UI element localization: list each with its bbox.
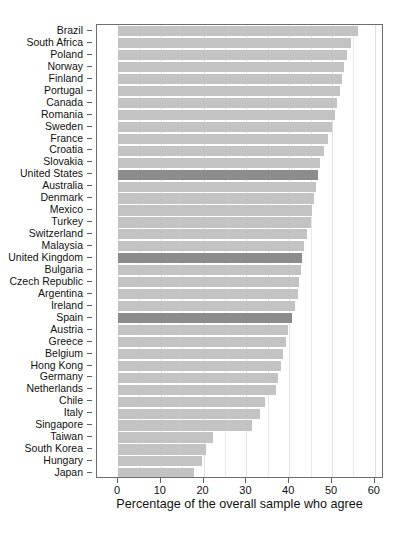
x-axis-label: 60 <box>359 484 389 496</box>
bar-row <box>97 264 383 277</box>
bar-row <box>97 144 383 157</box>
y-axis-tick <box>87 329 92 330</box>
y-axis-tick <box>87 472 92 473</box>
y-axis-tick <box>87 412 92 413</box>
bar <box>118 217 311 227</box>
bar <box>118 158 320 168</box>
bar-row <box>97 192 383 205</box>
bar-row <box>97 49 383 62</box>
y-axis-label: Japan <box>54 466 83 479</box>
bar-row <box>97 37 383 50</box>
y-axis-label: Hong Kong <box>30 359 83 372</box>
y-axis-label: Portugal <box>44 84 83 97</box>
y-axis: BrazilSouth AfricaPolandNorwayFinlandPor… <box>0 24 96 478</box>
y-axis-label: Turkey <box>51 215 83 228</box>
y-axis-label: Spain <box>56 311 83 324</box>
y-axis-tick <box>87 436 92 437</box>
x-axis-label: 40 <box>273 484 303 496</box>
y-axis-label: Brazil <box>57 24 83 37</box>
y-axis-tick <box>87 161 92 162</box>
y-axis-label: Netherlands <box>26 382 83 395</box>
y-axis-label: Denmark <box>40 191 83 204</box>
y-axis-tick <box>87 460 92 461</box>
y-axis-tick <box>87 114 92 115</box>
x-axis-tick <box>245 478 246 483</box>
bar <box>118 253 302 263</box>
bar-row <box>97 288 383 301</box>
y-axis-label: Austria <box>50 323 83 336</box>
bar-row <box>97 133 383 146</box>
bar <box>118 420 252 430</box>
bar-row <box>97 168 383 181</box>
bar-row <box>97 85 383 98</box>
x-axis-label: 10 <box>145 484 175 496</box>
y-axis-label: Bulgaria <box>44 263 83 276</box>
bar <box>118 301 295 311</box>
y-axis-tick <box>87 257 92 258</box>
y-axis-tick <box>87 78 92 79</box>
x-axis-tick <box>374 478 375 483</box>
y-axis-label: Ireland <box>51 299 83 312</box>
bar-row <box>97 25 383 38</box>
bar <box>118 110 335 120</box>
y-axis-tick <box>87 126 92 127</box>
bar-row <box>97 419 383 432</box>
bar <box>118 373 278 383</box>
bar-row <box>97 97 383 110</box>
y-axis-label: Switzerland <box>29 227 83 240</box>
x-axis-title: Percentage of the overall sample who agr… <box>96 497 383 511</box>
bar <box>118 50 347 60</box>
bar-row <box>97 467 383 478</box>
bar <box>118 205 312 215</box>
bar <box>118 409 260 419</box>
y-axis-tick <box>87 365 92 366</box>
bar <box>118 265 301 275</box>
y-axis-tick <box>87 233 92 234</box>
bar <box>118 193 314 203</box>
plot-panel <box>96 24 383 478</box>
bar <box>118 229 307 239</box>
y-axis-label: Australia <box>42 179 83 192</box>
bar <box>118 468 194 478</box>
bar <box>118 325 288 335</box>
bar <box>118 456 202 466</box>
y-axis-label: Singapore <box>35 418 83 431</box>
bar-row <box>97 121 383 134</box>
bar <box>118 170 318 180</box>
bar <box>118 62 344 72</box>
bar-row <box>97 336 383 349</box>
y-axis-label: United States <box>20 167 83 180</box>
bar <box>118 397 265 407</box>
y-axis-tick <box>87 173 92 174</box>
bar <box>118 146 324 156</box>
x-axis-label: 0 <box>102 484 132 496</box>
x-axis-tick <box>160 478 161 483</box>
bar-row <box>97 180 383 193</box>
y-axis-tick <box>87 138 92 139</box>
x-axis-label: 30 <box>230 484 260 496</box>
y-axis-label: Greece <box>49 335 83 348</box>
y-axis-label: Canada <box>46 96 83 109</box>
bar-row <box>97 61 383 74</box>
bar <box>118 241 304 251</box>
y-axis-tick <box>87 209 92 210</box>
y-axis-tick <box>87 424 92 425</box>
y-axis-tick <box>87 149 92 150</box>
bar-row <box>97 348 383 361</box>
x-axis-label: 20 <box>188 484 218 496</box>
y-axis-tick <box>87 317 92 318</box>
bar <box>118 74 342 84</box>
y-axis-tick <box>87 305 92 306</box>
bar-row <box>97 360 383 373</box>
bar-row <box>97 276 383 289</box>
bar-row <box>97 371 383 384</box>
y-axis-tick <box>87 102 92 103</box>
y-axis-label: Slovakia <box>43 155 83 168</box>
bar-row <box>97 73 383 86</box>
bar <box>118 122 332 132</box>
y-axis-tick <box>87 221 92 222</box>
y-axis-label: Chile <box>59 394 83 407</box>
bar <box>118 361 281 371</box>
y-axis-tick <box>87 30 92 31</box>
bar-row <box>97 300 383 313</box>
